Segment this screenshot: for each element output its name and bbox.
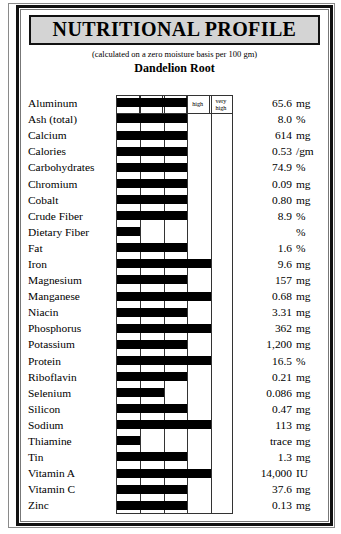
bar-track [116, 208, 233, 224]
bar-track [116, 224, 233, 240]
bar-track [116, 481, 233, 497]
nutrient-bar [117, 179, 187, 188]
grid-divider [211, 95, 212, 111]
title-box: NUTRITIONAL PROFILE [29, 15, 320, 45]
grid-divider [211, 175, 212, 191]
nutrient-name: Silicon [28, 401, 114, 417]
nutrient-unit: mg [296, 304, 332, 320]
nutrient-bar [117, 485, 187, 494]
nutrient-name: Ash (total) [28, 111, 114, 127]
nutrient-row: Tin1.3mg [28, 449, 321, 465]
grid-divider [140, 224, 141, 240]
nutrient-row: Silicon0.47mg [28, 401, 321, 417]
grid-divider [187, 192, 188, 208]
grid-divider [187, 224, 188, 240]
grid-divider [187, 336, 188, 352]
nutrient-name: Thiamine [28, 433, 114, 449]
nutrient-row: Calories0.53/gm [28, 143, 321, 159]
grid-divider [187, 208, 188, 224]
grid-divider [187, 433, 188, 449]
nutrient-bar [117, 163, 187, 172]
grid-divider [211, 224, 212, 240]
nutrient-value: 14,000 [236, 465, 292, 481]
grid-divider [164, 385, 165, 401]
nutrient-name: Phosphorus [28, 320, 114, 336]
nutrient-value: 0.80 [236, 192, 292, 208]
nutrient-bar [117, 404, 187, 413]
nutrient-bar [117, 275, 187, 284]
nutrient-name: Iron [28, 256, 114, 272]
bar-track [116, 272, 233, 288]
nutrient-name: Magnesium [28, 272, 114, 288]
nutrient-unit: % [296, 208, 332, 224]
grid-divider [211, 385, 212, 401]
grid-divider [211, 369, 212, 385]
grid-divider [211, 336, 212, 352]
nutrient-name: Calories [28, 143, 114, 159]
nutrient-name: Vitamin C [28, 481, 114, 497]
nutrient-unit: mg [296, 288, 332, 304]
bar-track [116, 288, 233, 304]
nutrient-name: Protein [28, 353, 114, 369]
nutrient-value: 9.6 [236, 256, 292, 272]
grid-divider [187, 111, 188, 127]
grid-divider [211, 417, 212, 433]
nutrient-bar [117, 147, 187, 156]
grid-divider [211, 304, 212, 320]
nutrient-unit: mg [296, 417, 332, 433]
nutrient-value: trace [236, 433, 292, 449]
bar-track [116, 143, 233, 159]
grid-divider [164, 224, 165, 240]
nutrient-value: 1.6 [236, 240, 292, 256]
nutrient-row: Phosphorus362mg [28, 320, 321, 336]
nutrient-name: Aluminum [28, 95, 114, 111]
nutrient-row: Vitamin C37.6mg [28, 481, 321, 497]
nutrient-unit: mg [296, 369, 332, 385]
bar-track [116, 256, 233, 272]
nutrient-bar [117, 469, 211, 478]
nutrient-bar [117, 356, 211, 365]
nutrient-name: Cobalt [28, 192, 114, 208]
bar-track [116, 127, 233, 143]
grid-divider [211, 320, 212, 336]
nutrient-name: Sodium [28, 417, 114, 433]
nutrient-value: 1.3 [236, 449, 292, 465]
nutrient-bar [117, 501, 187, 510]
plant-name-heading: Dandelion Root [26, 61, 323, 76]
grid-divider [211, 449, 212, 465]
nutrient-row: Riboflavin0.21mg [28, 369, 321, 385]
grid-divider [187, 159, 188, 175]
nutrient-name: Calcium [28, 127, 114, 143]
nutrient-unit: mg [296, 401, 332, 417]
grid-divider [187, 175, 188, 191]
nutrient-name: Niacin [28, 304, 114, 320]
grid-divider [211, 111, 212, 127]
bar-track [116, 111, 233, 127]
nutrient-unit: mg [296, 449, 332, 465]
bar-track [116, 240, 233, 256]
nutrient-unit: IU [296, 465, 332, 481]
bar-track [116, 401, 233, 417]
nutrient-row: Iron9.6mg [28, 256, 321, 272]
nutrient-row: Sodium113mg [28, 417, 321, 433]
nutrient-row: Carbohydrates74.9% [28, 159, 321, 175]
nutrient-unit: mg [296, 336, 332, 352]
nutrient-row: Thiaminetracemg [28, 433, 321, 449]
nutrient-name: Zinc [28, 497, 114, 513]
nutrient-row: Calcium614mg [28, 127, 321, 143]
nutrient-name: Selenium [28, 385, 114, 401]
nutrient-row: Protein16.5% [28, 353, 321, 369]
nutrient-unit: mg [296, 127, 332, 143]
nutrient-value: 0.47 [236, 401, 292, 417]
grid-divider [187, 401, 188, 417]
nutrient-bar [117, 388, 164, 397]
bar-track [116, 417, 233, 433]
bar-track [116, 433, 233, 449]
grid-divider [187, 304, 188, 320]
subtitle: (calculated on a zero moisture basis per… [26, 49, 323, 59]
bar-track [116, 336, 233, 352]
nutrient-unit: mg [296, 95, 332, 111]
grid-divider [187, 143, 188, 159]
nutrient-value: 1,200 [236, 336, 292, 352]
grid-divider [187, 272, 188, 288]
